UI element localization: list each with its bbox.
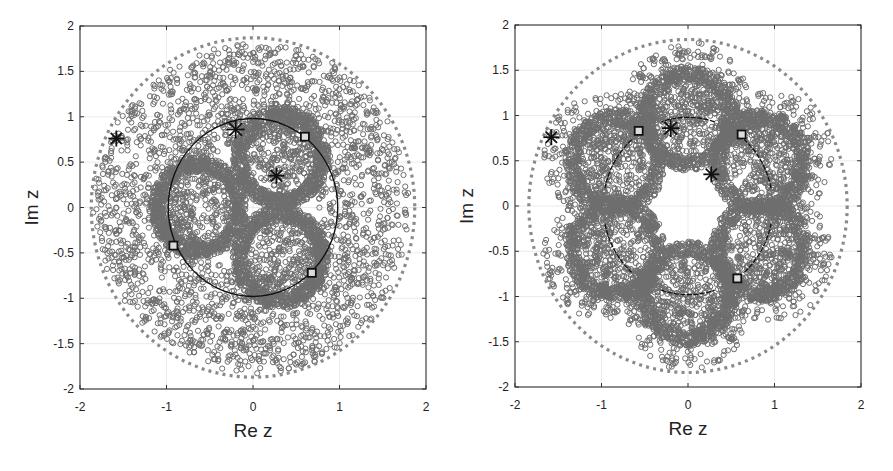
svg-text:1: 1 [502,109,509,123]
svg-text:-2: -2 [498,380,509,394]
svg-text:-2: -2 [75,400,86,414]
square-marker [301,133,309,141]
svg-text:2: 2 [67,19,74,33]
eigenvalue-cloud [541,40,834,370]
square-marker [738,131,746,139]
y-axis-label: Im z [456,188,477,224]
svg-text:-1.5: -1.5 [53,337,74,351]
svg-text:0: 0 [250,400,257,414]
star-marker [662,119,680,137]
svg-text:-0.5: -0.5 [53,246,74,260]
svg-text:0: 0 [67,201,74,215]
svg-text:0: 0 [685,398,692,412]
svg-text:-2: -2 [510,398,521,412]
svg-text:1.5: 1.5 [57,64,74,78]
svg-text:2: 2 [858,398,865,412]
x-axis-label: Re z [233,420,272,441]
left-plot: -2-101221.510.50-0.5-1-1.5-2Re zIm z [21,19,430,441]
star-marker [108,131,124,147]
right-plot: -2-101221.510.50-0.5-1-1.5-2Re zIm z [456,18,865,439]
svg-text:2: 2 [502,18,509,32]
y-axis-label: Im z [21,190,42,226]
svg-text:0.5: 0.5 [492,154,509,168]
svg-text:1: 1 [771,398,778,412]
svg-text:-1: -1 [161,400,172,414]
star-marker [543,129,559,145]
star-marker [227,120,245,138]
svg-text:0: 0 [502,199,509,213]
x-axis-label: Re z [668,418,707,439]
svg-text:0.5: 0.5 [57,155,74,169]
svg-text:-2: -2 [63,382,74,396]
svg-text:1: 1 [67,110,74,124]
star-marker [703,166,719,182]
star-marker [268,168,284,184]
svg-text:-1: -1 [63,291,74,305]
square-marker [308,269,316,277]
svg-text:-1: -1 [498,290,509,304]
svg-text:1.5: 1.5 [492,63,509,77]
figure: -2-101221.510.50-0.5-1-1.5-2Re zIm z -2-… [0,0,893,471]
svg-text:-1.5: -1.5 [488,335,509,349]
svg-text:-0.5: -0.5 [488,244,509,258]
svg-text:-1: -1 [596,398,607,412]
svg-text:1: 1 [336,400,343,414]
square-marker [635,127,643,135]
svg-text:2: 2 [423,400,430,414]
square-marker [169,242,177,250]
square-marker [733,274,741,282]
